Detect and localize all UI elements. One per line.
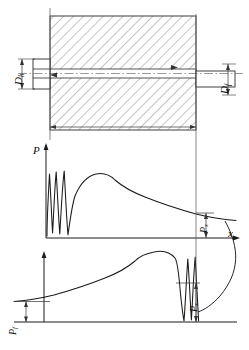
- inlet-flange: [33, 59, 50, 89]
- upper-y-axis-label: P: [33, 145, 40, 156]
- upper-x-axis-label: x: [228, 228, 233, 239]
- upper-chart: [44, 130, 240, 312]
- upper-x-axis-arrow: [233, 236, 240, 241]
- inlet-diameter-label: Dh: [13, 73, 26, 85]
- upper-y-axis-arrow: [44, 143, 49, 150]
- lower-px-arrow-top: [194, 283, 198, 289]
- figure-root: Dh Df P x Px Px Pf: [0, 0, 249, 350]
- lower-pressure-curve: [14, 251, 199, 321]
- upper-px-label: Px: [199, 224, 210, 233]
- lower-px-arrow-bottom: [194, 316, 198, 322]
- lower-pf-arrow-bottom: [24, 317, 28, 323]
- lower-y-axis-arrow: [42, 251, 47, 258]
- lower-pf-label: Pf: [8, 327, 19, 335]
- lower-pf-arrow-top: [24, 302, 28, 308]
- technical-diagram: [0, 0, 249, 350]
- block-assembly: [18, 8, 243, 140]
- inlet-dim-arrow-top: [20, 59, 24, 65]
- outlet-dim-arrow-top: [226, 64, 230, 70]
- lower-px-label: Px: [189, 303, 200, 312]
- outlet-diameter-label: Df: [219, 84, 232, 94]
- figure-caption: [0, 337, 249, 350]
